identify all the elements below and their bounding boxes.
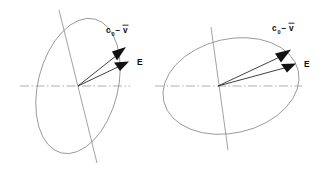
left-label-minus: − — [116, 26, 121, 35]
figure-canvas: c 0 − v E — [0, 0, 334, 171]
left-tilted-axis-line — [59, 10, 97, 163]
left-c0-minus-v-label: c 0 − v — [106, 25, 129, 36]
right-label-c-subscript: 0 — [278, 29, 281, 35]
right-c0-minus-v-vector — [218, 50, 291, 87]
left-panel: c 0 − v E — [20, 9, 143, 163]
right-label-minus: − — [282, 24, 287, 33]
right-c0-minus-v-label: c 0 − v — [272, 23, 295, 34]
left-label-E: E — [137, 57, 143, 67]
right-tilted-axis-line — [211, 27, 228, 150]
physics-figure: c 0 − v E — [0, 0, 334, 171]
left-E-arrowhead — [114, 62, 129, 72]
left-c0-minus-v-arrowhead — [112, 47, 126, 61]
left-label-v: v — [123, 26, 128, 35]
left-E-vector — [78, 62, 129, 87]
left-label-c: c — [106, 26, 111, 35]
right-label-c: c — [272, 24, 277, 33]
right-label-E: E — [304, 59, 310, 69]
right-panel: c 0 − v E — [153, 23, 310, 150]
right-E-vector — [218, 64, 296, 87]
left-label-c-subscript: 0 — [112, 31, 115, 37]
right-label-v: v — [289, 24, 294, 33]
right-c0-minus-v-arrowhead — [275, 50, 291, 63]
